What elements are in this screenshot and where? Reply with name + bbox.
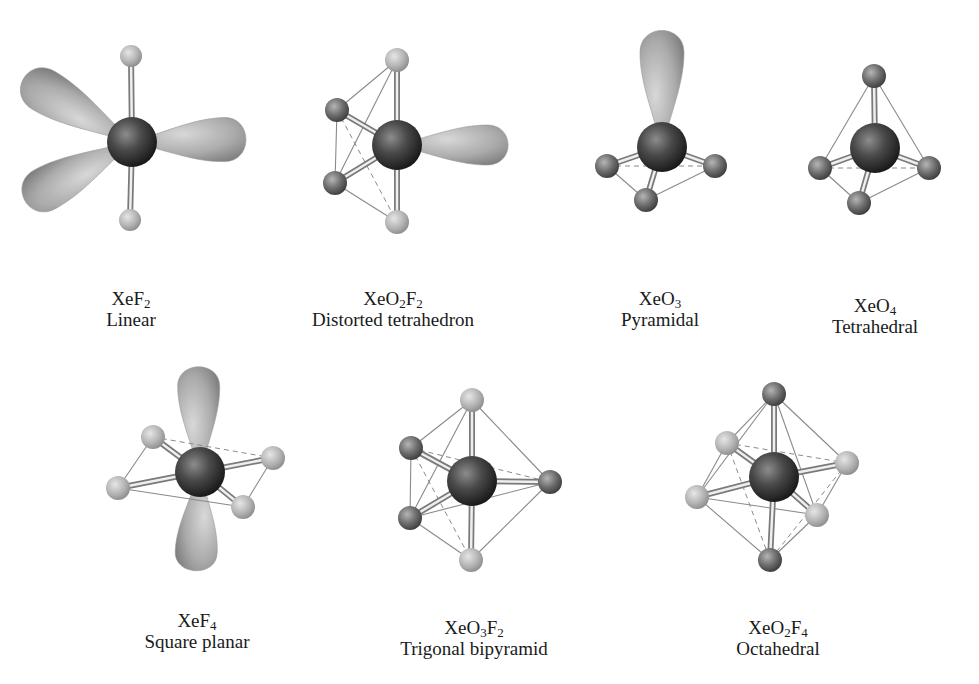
- xenon-atom-icon: [749, 452, 799, 502]
- xenon-atom-icon: [107, 117, 157, 167]
- oxygen-atom-icon: [847, 191, 871, 215]
- oxygen-atom-icon: [595, 154, 619, 178]
- geometry-name: Trigonal bipyramid: [400, 638, 548, 659]
- oxygen-atom-icon: [703, 154, 727, 178]
- chemical-formula: XeO4: [832, 295, 918, 316]
- oxygen-atom-icon: [323, 171, 347, 195]
- fluorine-atom-icon: [120, 45, 142, 67]
- fluorine-atom-icon: [805, 503, 829, 527]
- fluorine-atom-icon: [106, 476, 130, 500]
- molecule-label-xeo3f2: XeO3F2Trigonal bipyramid: [400, 617, 548, 659]
- fluorine-atom-icon: [119, 209, 141, 231]
- geometry-name: Octahedral: [736, 638, 819, 659]
- fluorine-atom-icon: [685, 485, 709, 509]
- geometry-name: Pyramidal: [621, 309, 699, 330]
- molecule-label-xeo2f2: XeO2F2Distorted tetrahedron: [312, 288, 474, 330]
- fluorine-atom-icon: [385, 210, 409, 234]
- fluorine-atom-icon: [715, 431, 739, 455]
- molecule-xeo4: [808, 64, 941, 215]
- xenon-atom-icon: [175, 447, 225, 497]
- xenon-atom-icon: [372, 120, 422, 170]
- xenon-atom-icon: [447, 456, 497, 506]
- fluorine-atom-icon: [141, 425, 165, 449]
- oxygen-atom-icon: [398, 506, 422, 530]
- fluorine-atom-icon: [459, 548, 483, 572]
- chemical-formula: XeO2F4: [736, 617, 819, 638]
- molecule-diagram: [0, 0, 979, 684]
- molecule-xeo3: [595, 30, 727, 212]
- oxygen-atom-icon: [399, 436, 423, 460]
- molecule-xef2: [12, 45, 246, 231]
- fluorine-atom-icon: [385, 48, 409, 72]
- chemical-formula: XeO3F2: [400, 617, 548, 638]
- oxygen-atom-icon: [808, 156, 832, 180]
- chemical-formula: XeF2: [106, 288, 156, 309]
- geometry-name: Square planar: [145, 631, 250, 652]
- xenon-atom-icon: [850, 123, 900, 173]
- molecule-xeo2f4: [685, 382, 859, 572]
- molecule-xeo3f2: [398, 388, 562, 572]
- chemical-formula: XeO2F2: [312, 288, 474, 309]
- molecule-label-xef2: XeF2Linear: [106, 288, 156, 330]
- geometry-name: Tetrahedral: [832, 316, 918, 337]
- oxygen-atom-icon: [325, 98, 349, 122]
- oxygen-atom-icon: [917, 156, 941, 180]
- molecule-label-xeo2f4: XeO2F4Octahedral: [736, 617, 819, 659]
- oxygen-atom-icon: [762, 382, 786, 406]
- molecule-xeo2f2: [323, 48, 508, 234]
- geometry-name: Distorted tetrahedron: [312, 309, 474, 330]
- chemical-formula: XeO3: [621, 288, 699, 309]
- oxygen-atom-icon: [758, 548, 782, 572]
- fluorine-atom-icon: [460, 388, 484, 412]
- molecule-xef4: [106, 366, 285, 571]
- fluorine-atom-icon: [261, 446, 285, 470]
- oxygen-atom-icon: [538, 470, 562, 494]
- molecule-label-xeo3: XeO3Pyramidal: [621, 288, 699, 330]
- oxygen-atom-icon: [862, 64, 886, 88]
- molecule-label-xeo4: XeO4Tetrahedral: [832, 295, 918, 337]
- xenon-atom-icon: [637, 122, 687, 172]
- oxygen-atom-icon: [634, 188, 658, 212]
- chemical-formula: XeF4: [145, 610, 250, 631]
- molecule-label-xef4: XeF4Square planar: [145, 610, 250, 652]
- geometry-name: Linear: [106, 309, 156, 330]
- fluorine-atom-icon: [231, 495, 255, 519]
- fluorine-atom-icon: [835, 451, 859, 475]
